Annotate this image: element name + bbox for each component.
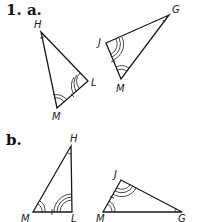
triangle-jgm-a <box>106 15 169 79</box>
vertex-label-h-b: H <box>70 133 78 144</box>
triangle-hlm-a <box>41 32 88 108</box>
vertex-label-g-b: G <box>178 213 186 222</box>
vertex-label-l-b: L <box>71 213 77 222</box>
vertex-label-m-b1: M <box>21 213 30 222</box>
vertex-label-m-b2: M <box>96 213 105 222</box>
vertex-label-m-a2: M <box>116 83 125 94</box>
triangle-mgj-b <box>103 180 182 212</box>
vertex-label-l-a: L <box>91 77 97 88</box>
vertex-label-j-a: J <box>96 37 101 48</box>
triangle-mlh-b <box>33 146 72 212</box>
vertex-label-m-a1: M <box>52 111 61 122</box>
triangles-diagram: H L M J G M H M L J M G <box>0 0 208 222</box>
vertex-label-j-b: J <box>112 169 117 180</box>
vertex-label-g-a: G <box>172 4 180 15</box>
vertex-label-h-a: H <box>34 19 42 30</box>
